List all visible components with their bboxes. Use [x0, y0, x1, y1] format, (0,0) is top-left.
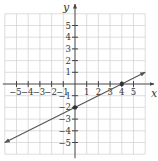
- y-tick-label: −1: [58, 91, 71, 101]
- y-tick-label: 5: [66, 21, 71, 31]
- intercept-point: [73, 105, 77, 109]
- x-tick-label: −3: [33, 87, 46, 97]
- y-tick-label: −5: [58, 138, 71, 148]
- coordinate-plane: xy−5−4−3−2−11234554321−1−2−3−4−5: [0, 0, 158, 161]
- y-tick-label: 4: [66, 32, 71, 42]
- x-tick-label: −4: [21, 87, 34, 97]
- intercept-point: [120, 82, 124, 86]
- x-tick-label: −5: [9, 87, 22, 97]
- y-tick-label: −4: [58, 126, 71, 136]
- y-tick-label: 3: [66, 44, 71, 54]
- x-axis-label: x: [151, 87, 158, 100]
- y-axis-label: y: [62, 1, 70, 14]
- y-tick-label: −3: [58, 114, 71, 124]
- x-tick-label: 1: [84, 87, 89, 97]
- x-tick-label: 5: [131, 87, 136, 97]
- y-tick-label: 2: [66, 56, 71, 66]
- x-tick-label: 4: [119, 87, 124, 97]
- y-tick-label: 1: [66, 67, 71, 77]
- x-tick-label: −2: [44, 87, 57, 97]
